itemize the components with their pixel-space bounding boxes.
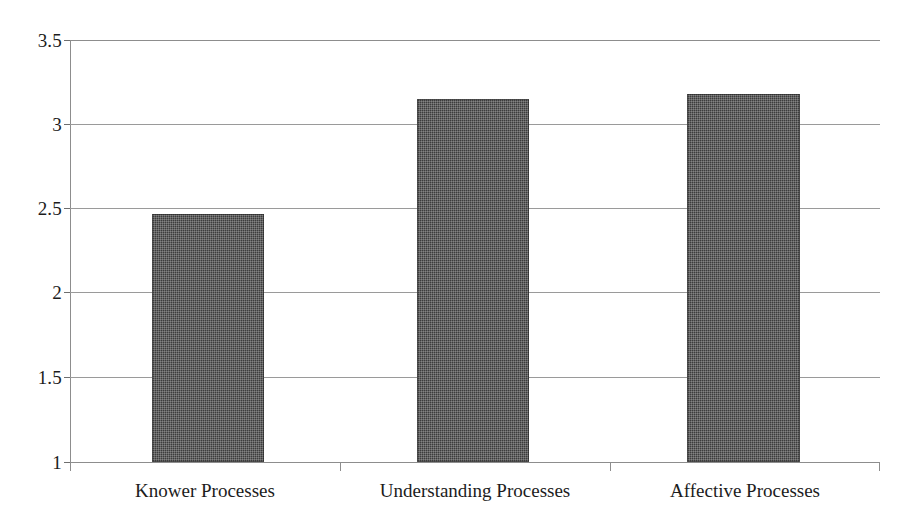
y-tick-label-3.5: 3.5	[10, 31, 62, 50]
y-tick-label-2.5: 2.5	[10, 199, 62, 218]
x-category-label-affective-processes: Affective Processes	[610, 480, 880, 502]
y-tick-label-1: 1	[10, 453, 62, 472]
y-tick-label-3: 3	[10, 115, 62, 134]
x-tick-mark-2	[610, 462, 611, 471]
x-tick-mark-0	[70, 462, 71, 471]
bar-chart: 3.5 3 2.5 2 1.5 1 Knower Processes Under…	[0, 0, 902, 528]
x-category-label-understanding-processes: Understanding Processes	[340, 480, 610, 502]
x-tick-mark-1	[340, 462, 341, 471]
bar-affective-processes	[687, 94, 800, 462]
bar-understanding-processes	[417, 99, 529, 462]
y-tick-label-2: 2	[10, 283, 62, 302]
gridline-1-baseline	[70, 462, 880, 463]
y-tick-label-1.5: 1.5	[10, 368, 62, 387]
gridline-3.5	[70, 40, 880, 41]
bar-knower-processes	[152, 214, 264, 462]
x-tick-mark-3	[879, 462, 880, 471]
y-axis-tick-labels: 3.5 3 2.5 2 1.5 1	[0, 0, 62, 528]
plot-area	[70, 40, 880, 462]
x-category-label-knower-processes: Knower Processes	[70, 480, 340, 502]
